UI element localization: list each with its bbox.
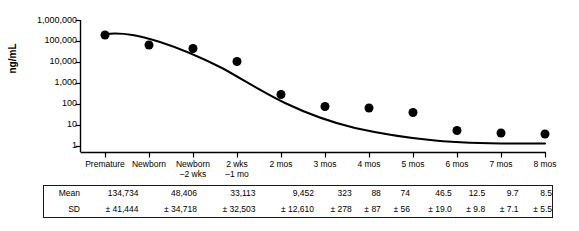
table-cell: 12.5 (452, 186, 485, 202)
table-cell: ± 87 (352, 202, 381, 218)
data-point (189, 44, 198, 53)
data-point (409, 108, 418, 117)
table-cell: ± 32,503 (197, 202, 256, 218)
data-point (453, 126, 462, 135)
table-cell: ± 41,444 (80, 202, 139, 218)
table-cell: 8.5 (519, 186, 552, 202)
x-tick-label-8mos: 8 mos (513, 159, 577, 169)
table-cell: ± 9.8 (452, 202, 485, 218)
table-cell: 88 (352, 186, 381, 202)
data-point (321, 102, 330, 111)
data-point (497, 129, 506, 138)
figure-container: ng/mL 1,000,000 100,000 10,000 1,000 100… (0, 0, 579, 231)
row-label-mean: Mean (44, 186, 80, 202)
data-point (145, 41, 154, 50)
table-cell: 323 (314, 186, 352, 202)
table-cell: ± 12,610 (256, 202, 315, 218)
table-cell: 74 (381, 186, 410, 202)
table-cell: 48,406 (139, 186, 198, 202)
table-cell: ± 34,718 (139, 202, 198, 218)
data-point (541, 130, 550, 139)
summary-statistics-table: Mean 134,734 48,406 33,113 9,452 323 88 … (43, 185, 553, 218)
table-cell: ± 19.0 (410, 202, 452, 218)
fitted-curve (105, 33, 545, 143)
data-point (277, 90, 286, 99)
table-cell: ± 7.1 (485, 202, 518, 218)
table-cell: ± 5.5 (519, 202, 552, 218)
table-row: SD ± 41,444 ± 34,718 ± 32,503 ± 12,610 ±… (44, 202, 552, 218)
table-cell: 46.5 (410, 186, 452, 202)
table-cell: ± 278 (314, 202, 352, 218)
table-cell: 9,452 (256, 186, 315, 202)
table-row: Mean 134,734 48,406 33,113 9,452 323 88 … (44, 186, 552, 202)
data-point (233, 57, 242, 66)
data-point (101, 31, 110, 40)
data-point (365, 104, 374, 113)
table-cell: 33,113 (197, 186, 256, 202)
table-cell: 9.7 (485, 186, 518, 202)
table-cell: ± 56 (381, 202, 410, 218)
table-cell: 134,734 (80, 186, 139, 202)
row-label-sd: SD (44, 202, 80, 218)
